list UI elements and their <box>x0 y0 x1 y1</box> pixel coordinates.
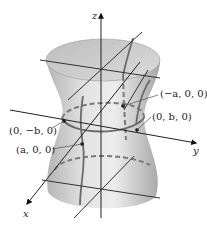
y-axis-label: y <box>192 145 199 156</box>
hyperboloid-surface <box>46 60 160 208</box>
point-label-pos-b: (0, b, 0) <box>152 111 192 122</box>
point-label-pos-a: (a, 0, 0) <box>16 144 55 155</box>
top-ellipse <box>46 39 160 81</box>
point-label-neg-b: (0, −b, 0) <box>9 125 57 136</box>
hyperboloid-diagram: z y x (−a, 0, 0) (0, b, 0) (0, −b, 0) (a… <box>0 0 207 225</box>
point-label-neg-a: (−a, 0, 0) <box>160 88 207 99</box>
z-axis-label: z <box>91 10 98 21</box>
x-axis-label: x <box>23 208 29 219</box>
